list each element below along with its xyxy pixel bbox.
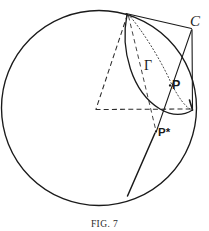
figure-caption-text: FIG. 7 — [91, 219, 118, 229]
label-p: P — [172, 79, 180, 92]
label-gamma: Γ — [144, 59, 152, 73]
dotted-arc-inner — [129, 15, 193, 111]
boundary-circle — [2, 11, 197, 206]
chord-c-to-b — [192, 30, 193, 111]
figure-container: C P P* Γ FIG. 7 — [0, 0, 209, 231]
figure-drawing — [0, 0, 209, 231]
label-p-star: P* — [158, 127, 170, 139]
point-marker-p-star — [155, 130, 157, 132]
chord-a-to-c — [126, 14, 192, 29]
dashed-chord-horizontal — [96, 109, 193, 110]
point-marker-p — [169, 84, 171, 86]
line-p-star-descending — [128, 133, 156, 196]
curve-gamma — [125, 15, 192, 115]
figure-caption: FIG. 7 — [0, 219, 209, 229]
label-c: C — [190, 14, 200, 29]
dashed-radius-upper — [96, 15, 128, 110]
